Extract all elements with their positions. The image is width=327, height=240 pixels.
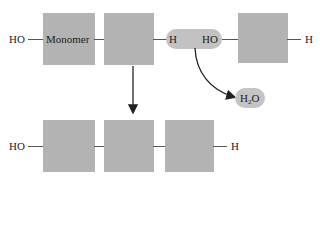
bottom-ho-label: HO <box>9 140 25 152</box>
bottom-monomer-3 <box>165 120 214 172</box>
bottom-bond-left <box>28 146 44 147</box>
bottom-bond-right <box>213 146 227 147</box>
bottom-monomer-1 <box>43 120 95 172</box>
water-label: H2O <box>240 92 259 108</box>
curved-arrow-icon <box>195 48 234 97</box>
bottom-h-label: H <box>231 140 239 152</box>
bottom-monomer-2 <box>104 120 154 172</box>
